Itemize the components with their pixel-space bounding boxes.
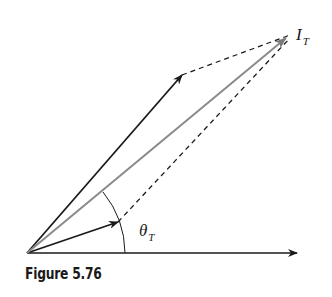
resultant-label: IT — [295, 25, 310, 47]
resultant-vector-arrow — [27, 38, 286, 253]
angle-label: θT — [139, 221, 155, 243]
figure-caption: Figure 5.76 — [25, 265, 102, 283]
phasor-diagram: IT θT — [0, 0, 332, 297]
dashed-line-lower — [118, 38, 290, 222]
